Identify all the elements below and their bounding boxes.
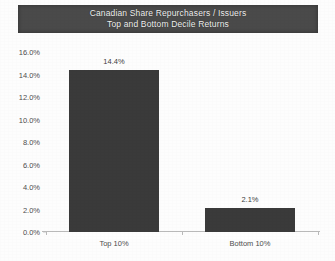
y-axis-tick-label: 10.0% [19, 115, 40, 124]
x-axis-tick-mark [46, 232, 47, 235]
bar-bottom-10 [205, 208, 295, 232]
chart-container: Canadian Share Repurchasers / Issuers To… [0, 0, 335, 261]
x-axis-category-label: Bottom 10% [230, 239, 271, 248]
x-axis-tick-mark [318, 232, 319, 235]
y-axis-tick-label: 6.0% [23, 160, 40, 169]
bar-value-label: 2.1% [241, 195, 258, 204]
x-axis-tick-mark [182, 232, 183, 235]
y-axis-tick-label: 4.0% [23, 183, 40, 192]
plot-area: 16.0%14.0%12.0%10.0%8.0%6.0%4.0%2.0%0.0%… [46, 52, 318, 232]
y-axis-tick-label: 8.0% [23, 138, 40, 147]
x-axis-category-label: Top 10% [99, 239, 128, 248]
y-axis-tick-label: 0.0% [23, 228, 40, 237]
y-axis-tick-label: 12.0% [19, 93, 40, 102]
chart-title-band: Canadian Share Repurchasers / Issuers To… [18, 5, 318, 33]
bar-value-label: 14.4% [103, 57, 124, 66]
chart-subtitle: Top and Bottom Decile Returns [107, 19, 229, 30]
bar-top-10 [69, 70, 159, 232]
y-axis-tick-label: 14.0% [19, 70, 40, 79]
chart-title: Canadian Share Repurchasers / Issuers [90, 8, 247, 19]
y-axis-tick-label: 16.0% [19, 48, 40, 57]
y-axis-tick-label: 2.0% [23, 205, 40, 214]
